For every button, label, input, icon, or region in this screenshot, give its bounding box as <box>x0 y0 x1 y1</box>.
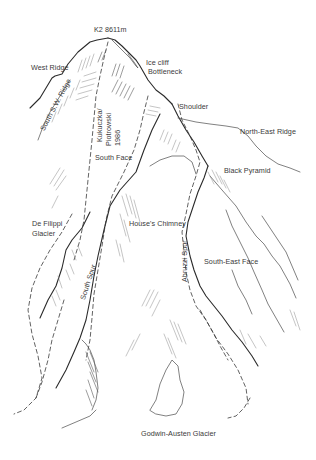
shoulder-label: Shoulder <box>179 102 208 111</box>
east-face-line-4 <box>232 270 252 314</box>
godwin-austen-route <box>228 398 250 418</box>
shoulder-to-black-pyramid <box>172 104 208 166</box>
kukuczka-label-line3: 1986 <box>113 130 122 146</box>
ice-cliff-label: Ice cliff <box>146 58 169 67</box>
north-east-ridge-label: North-East Ridge <box>240 127 296 136</box>
abruzzi-spur-line <box>186 166 258 366</box>
west-ridge-label: West Ridge <box>31 63 69 72</box>
lower-rock-outline <box>150 360 184 416</box>
glacier-left-edge <box>62 410 96 428</box>
south-face-label: South Face <box>95 153 132 162</box>
south-face-hatching <box>116 194 140 262</box>
kukuczka-route <box>74 42 108 260</box>
kukuczka-label-line2: Piotrowski <box>104 113 113 146</box>
black-pyramid-label: Black Pyramid <box>224 166 271 175</box>
summit-label: K2 8611m <box>94 25 127 34</box>
east-face-line-3 <box>262 216 298 280</box>
de-filippi-label-line1: De Filippi <box>32 219 62 228</box>
godwin-austen-glacier-label: Godwin-Austen Glacier <box>141 429 216 438</box>
east-lower-hatching <box>240 310 300 348</box>
de-filippi-label-line2: Glacier <box>32 229 55 238</box>
abruzzi-spur-label: Abruzzi Spur <box>180 240 189 282</box>
de-filippi-route <box>14 214 72 414</box>
west-ridge-line <box>30 38 108 108</box>
lower-left-rock <box>82 340 98 410</box>
lower-glacier-route <box>200 310 228 360</box>
bottleneck-label: Bottleneck <box>148 67 182 76</box>
south-east-face-label: South-East Face <box>204 257 258 266</box>
center-hatching <box>126 290 186 358</box>
houses-chimney-label: House's Chimney <box>129 219 186 228</box>
shoulder-hatching <box>146 106 180 152</box>
east-face-line-2 <box>226 210 284 332</box>
kukuczka-label-line1: Kukuczka/ <box>95 108 104 142</box>
chimney-arch <box>150 156 196 174</box>
east-face-line-1 <box>210 176 296 298</box>
summit-hatching <box>98 50 134 100</box>
